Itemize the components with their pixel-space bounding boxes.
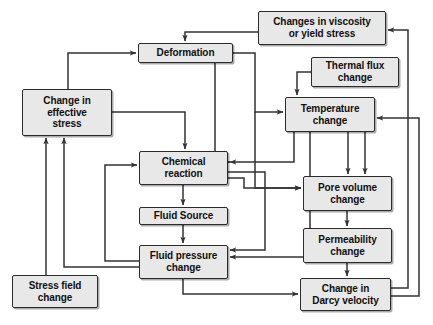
node-stress-field-line2: change bbox=[27, 292, 84, 304]
node-thermal-flux[interactable]: Thermal flux change bbox=[311, 57, 399, 87]
edge-temperature-to-fluid-pressure bbox=[230, 132, 310, 257]
node-viscosity[interactable]: Changes in viscosity or yield stress bbox=[258, 11, 386, 45]
node-permeability[interactable]: Permeability change bbox=[303, 228, 392, 263]
node-effective-stress-line3: stress bbox=[41, 118, 92, 130]
edge-chemical-reaction-to-fluid-pressure bbox=[228, 172, 265, 250]
edge-fluid-pressure-to-chemical-reaction bbox=[105, 165, 139, 261]
node-temperature[interactable]: Temperature change bbox=[285, 97, 375, 132]
edge-fluid-pressure-to-darcy-velocity bbox=[183, 279, 298, 294]
node-darcy-velocity-line2: Darcy velocity bbox=[310, 295, 380, 307]
node-fluid-pressure-line1: Fluid pressure bbox=[148, 250, 220, 262]
edge-deformation-to-temperature bbox=[233, 53, 283, 112]
node-chemical-reaction-line2: reaction bbox=[160, 168, 208, 180]
node-thermal-flux-line2: change bbox=[324, 72, 386, 84]
node-pore-volume-line2: change bbox=[316, 194, 379, 206]
edge-viscosity-to-deformation bbox=[185, 32, 258, 41]
node-chemical-reaction-line1: Chemical bbox=[160, 156, 208, 168]
node-permeability-line1: Permeability bbox=[316, 234, 378, 246]
node-stress-field[interactable]: Stress field change bbox=[12, 275, 98, 308]
node-permeability-line2: change bbox=[316, 246, 378, 258]
node-deformation[interactable]: Deformation bbox=[138, 43, 233, 63]
node-effective-stress[interactable]: Change in effective stress bbox=[22, 89, 112, 136]
node-pore-volume[interactable]: Pore volume change bbox=[303, 176, 392, 211]
node-fluid-pressure[interactable]: Fluid pressure change bbox=[139, 245, 228, 279]
flow-diagram: Changes in viscosity or yield stress Def… bbox=[0, 0, 433, 325]
node-effective-stress-line1: Change in bbox=[41, 95, 92, 107]
node-pore-volume-line1: Pore volume bbox=[316, 182, 379, 194]
node-stress-field-line1: Stress field bbox=[27, 280, 84, 292]
edge-effective-stress-to-chemical-reaction bbox=[112, 112, 185, 149]
edge-deformation-to-chemical-reaction bbox=[215, 63, 230, 162]
node-fluid-source-line1: Fluid Source bbox=[152, 210, 215, 222]
node-chemical-reaction[interactable]: Chemical reaction bbox=[139, 151, 228, 185]
edge-effective-stress-to-deformation bbox=[68, 53, 136, 89]
node-fluid-source[interactable]: Fluid Source bbox=[139, 207, 228, 225]
node-thermal-flux-line1: Thermal flux bbox=[324, 60, 386, 72]
node-darcy-velocity-line1: Change in bbox=[310, 283, 380, 295]
edge-fluid-pressure-to-effective-stress bbox=[64, 138, 139, 267]
node-viscosity-line1: Changes in viscosity bbox=[271, 16, 372, 28]
node-effective-stress-line2: effective bbox=[41, 107, 92, 119]
node-temperature-line1: Temperature bbox=[299, 103, 362, 115]
node-temperature-line2: change bbox=[299, 115, 362, 127]
node-deformation-line1: Deformation bbox=[155, 47, 217, 59]
node-fluid-pressure-line2: change bbox=[148, 262, 220, 274]
node-viscosity-line2: or yield stress bbox=[271, 28, 372, 40]
edge-thermal-flux-to-temperature bbox=[297, 72, 311, 95]
node-darcy-velocity[interactable]: Change in Darcy velocity bbox=[300, 278, 391, 311]
edge-temperature-to-chemical-reaction bbox=[230, 132, 294, 162]
